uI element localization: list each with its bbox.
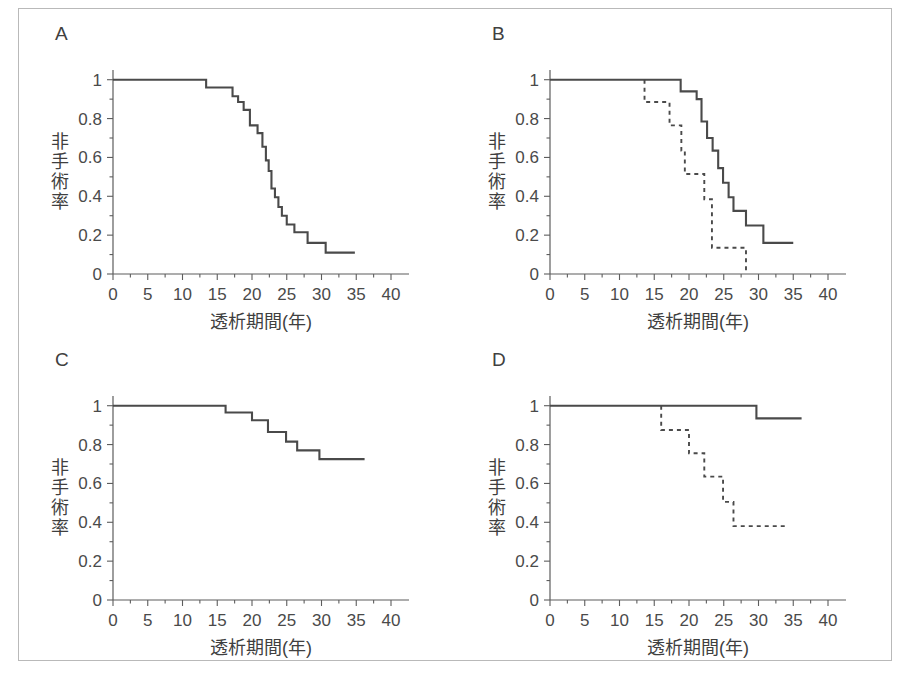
y-axis-title-char: 手 xyxy=(51,152,69,172)
y-tick-label: 0 xyxy=(93,591,102,610)
km-curve-solid xyxy=(113,80,355,253)
y-tick-label: 1 xyxy=(530,71,539,90)
y-tick-label: 1 xyxy=(93,71,102,90)
x-tick-label: 0 xyxy=(108,611,117,630)
x-tick-label: 5 xyxy=(143,611,152,630)
x-axis-title: 透析期間(年) xyxy=(210,638,312,658)
y-axis-title-char: 非 xyxy=(51,132,69,152)
panel-b: B 00.20.40.60.810510152025303540透析期間(年)非… xyxy=(456,9,893,335)
km-curve-solid xyxy=(113,406,365,459)
km-curve-dashed xyxy=(645,80,746,272)
x-tick-label: 35 xyxy=(347,285,366,304)
x-tick-label: 20 xyxy=(243,611,262,630)
y-axis-title-char: 率 xyxy=(488,192,506,212)
y-axis-title-char: 手 xyxy=(488,152,506,172)
x-tick-label: 10 xyxy=(173,611,192,630)
x-tick-label: 25 xyxy=(714,611,733,630)
y-tick-label: 0.4 xyxy=(78,187,102,206)
x-tick-label: 0 xyxy=(545,611,554,630)
y-axis-title-char: 手 xyxy=(488,478,506,498)
x-tick-label: 15 xyxy=(208,611,227,630)
x-tick-label: 35 xyxy=(347,611,366,630)
y-tick-label: 0.6 xyxy=(78,148,102,167)
x-tick-label: 40 xyxy=(819,285,838,304)
x-tick-label: 20 xyxy=(680,285,699,304)
y-tick-label: 0.4 xyxy=(515,513,539,532)
x-tick-label: 15 xyxy=(645,285,664,304)
x-tick-label: 35 xyxy=(784,611,803,630)
x-tick-label: 30 xyxy=(749,611,768,630)
x-tick-label: 20 xyxy=(680,611,699,630)
y-axis-title-char: 率 xyxy=(51,518,69,538)
y-tick-label: 0.6 xyxy=(515,474,539,493)
figure-frame: A 00.20.40.60.810510152025303540透析期間(年)非… xyxy=(18,8,892,661)
y-tick-label: 1 xyxy=(93,397,102,416)
y-tick-label: 0.4 xyxy=(78,513,102,532)
y-tick-label: 0.2 xyxy=(78,226,102,245)
y-axis-title-char: 率 xyxy=(51,192,69,212)
panel-d: D 00.20.40.60.810510152025303540透析期間(年)非… xyxy=(456,335,893,661)
panel-d-plot: 00.20.40.60.810510152025303540透析期間(年)非手術… xyxy=(456,335,893,661)
x-tick-label: 10 xyxy=(173,285,192,304)
y-tick-label: 0.8 xyxy=(515,436,539,455)
x-tick-label: 35 xyxy=(784,285,803,304)
x-tick-label: 25 xyxy=(714,285,733,304)
y-tick-label: 0.2 xyxy=(515,552,539,571)
x-tick-label: 25 xyxy=(277,611,296,630)
panel-c: C 00.20.40.60.810510152025303540透析期間(年)非… xyxy=(19,335,456,661)
y-axis-title-char: 術 xyxy=(51,172,69,192)
y-axis-title-char: 術 xyxy=(488,498,506,518)
panel-b-plot: 00.20.40.60.810510152025303540透析期間(年)非手術… xyxy=(456,9,893,335)
x-axis-title: 透析期間(年) xyxy=(647,312,749,332)
y-tick-label: 0.6 xyxy=(78,474,102,493)
x-tick-label: 20 xyxy=(243,285,262,304)
x-tick-label: 30 xyxy=(749,285,768,304)
y-tick-label: 0.8 xyxy=(78,436,102,455)
y-axis-title-char: 術 xyxy=(51,498,69,518)
y-tick-label: 0.8 xyxy=(515,110,539,129)
x-tick-label: 40 xyxy=(382,611,401,630)
y-axis-title-char: 術 xyxy=(488,172,506,192)
x-tick-label: 5 xyxy=(580,611,589,630)
y-axis-title-char: 非 xyxy=(51,458,69,478)
y-axis-title-char: 手 xyxy=(51,478,69,498)
km-curve-solid xyxy=(550,80,793,243)
y-tick-label: 0 xyxy=(530,265,539,284)
x-axis-title: 透析期間(年) xyxy=(647,638,749,658)
panel-c-plot: 00.20.40.60.810510152025303540透析期間(年)非手術… xyxy=(19,335,456,661)
x-axis-title: 透析期間(年) xyxy=(210,312,312,332)
y-tick-label: 0.8 xyxy=(78,110,102,129)
km-curve-solid xyxy=(550,406,802,419)
y-tick-label: 0.6 xyxy=(515,148,539,167)
panel-a: A 00.20.40.60.810510152025303540透析期間(年)非… xyxy=(19,9,456,335)
x-tick-label: 30 xyxy=(312,611,331,630)
x-tick-label: 30 xyxy=(312,285,331,304)
y-tick-label: 0 xyxy=(530,591,539,610)
panel-a-plot: 00.20.40.60.810510152025303540透析期間(年)非手術… xyxy=(19,9,456,335)
y-tick-label: 1 xyxy=(530,397,539,416)
y-tick-label: 0.4 xyxy=(515,187,539,206)
x-tick-label: 10 xyxy=(610,611,629,630)
x-tick-label: 15 xyxy=(645,611,664,630)
y-tick-label: 0.2 xyxy=(515,226,539,245)
x-tick-label: 5 xyxy=(143,285,152,304)
x-tick-label: 40 xyxy=(819,611,838,630)
x-tick-label: 0 xyxy=(545,285,554,304)
y-axis-title-char: 非 xyxy=(488,132,506,152)
x-tick-label: 40 xyxy=(382,285,401,304)
y-tick-label: 0.2 xyxy=(78,552,102,571)
x-tick-label: 25 xyxy=(277,285,296,304)
x-tick-label: 5 xyxy=(580,285,589,304)
y-axis-title-char: 率 xyxy=(488,518,506,538)
km-curve-dashed xyxy=(661,406,786,526)
y-tick-label: 0 xyxy=(93,265,102,284)
y-axis-title-char: 非 xyxy=(488,458,506,478)
x-tick-label: 10 xyxy=(610,285,629,304)
x-tick-label: 15 xyxy=(208,285,227,304)
x-tick-label: 0 xyxy=(108,285,117,304)
